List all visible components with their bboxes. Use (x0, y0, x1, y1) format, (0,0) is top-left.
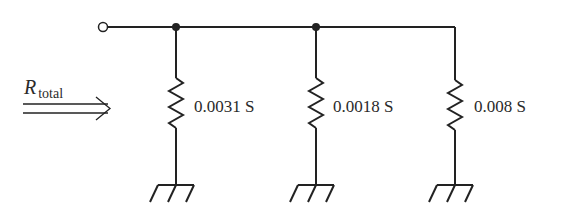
junction-dot-1-icon (172, 23, 180, 31)
resistor-1-icon (169, 78, 183, 128)
resistor-2-icon (309, 78, 323, 128)
input-terminal-icon (99, 23, 108, 32)
resistor-2-value: 0.0018 S (333, 97, 393, 117)
r-total-symbol: R (24, 76, 36, 98)
r-total-label: Rtotal (24, 76, 63, 99)
resistor-3-icon (448, 80, 462, 130)
branch-3 (429, 80, 473, 202)
ground-2-icon (290, 185, 334, 202)
ground-3-icon (429, 185, 473, 202)
double-arrow-icon (23, 97, 110, 120)
junction-dot-2-icon (312, 23, 320, 31)
resistor-3-value: 0.008 S (474, 97, 526, 117)
resistor-1-value: 0.0031 S (194, 97, 254, 117)
branch-1 (150, 27, 194, 202)
circuit-diagram: Rtotal 0.0031 S 0.0018 S 0.008 S (0, 0, 568, 218)
r-total-subscript: total (38, 86, 63, 101)
branch-2 (290, 27, 334, 202)
ground-1-icon (150, 185, 194, 202)
